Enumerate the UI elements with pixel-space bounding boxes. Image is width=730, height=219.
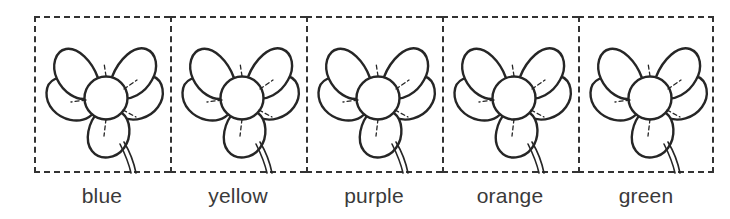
- worksheet-canvas: blue yellow purple orange green: [0, 0, 730, 219]
- flower-cell-grid: [34, 16, 714, 173]
- flower-outline-icon: [580, 18, 716, 175]
- flower-outline-icon: [172, 18, 308, 175]
- flower-outline-icon: [308, 18, 444, 175]
- flower-label-cell: yellow: [170, 173, 306, 219]
- flower-cell[interactable]: [442, 16, 578, 173]
- flower-outline-icon: [444, 18, 580, 175]
- flower-label-row: blue yellow purple orange green: [34, 173, 714, 219]
- flower-label-cell: green: [578, 173, 714, 219]
- flower-cell[interactable]: [578, 16, 714, 173]
- flower-label-blue: blue: [82, 184, 123, 208]
- flower-label-cell: purple: [306, 173, 442, 219]
- flower-label-cell: blue: [34, 173, 170, 219]
- flower-cell[interactable]: [34, 16, 170, 173]
- flower-outline-icon: [36, 18, 172, 175]
- flower-label-purple: purple: [344, 184, 404, 208]
- flower-label-cell: orange: [442, 173, 578, 219]
- flower-label-orange: orange: [477, 184, 544, 208]
- flower-label-yellow: yellow: [208, 184, 268, 208]
- flower-label-green: green: [619, 184, 674, 208]
- flower-cell[interactable]: [170, 16, 306, 173]
- flower-cell[interactable]: [306, 16, 442, 173]
